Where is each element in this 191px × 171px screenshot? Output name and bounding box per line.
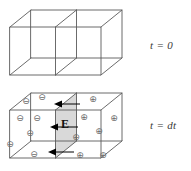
positive-charge: ⊕	[95, 126, 103, 136]
panel-bottom: ⊖ ⊖ ⊖ ⊖ ⊖ ⊖ ⊖ ⊕ ⊕ ⊕ ⊕ ⊕ ⊕ ⊕	[0, 0, 191, 171]
field-label-E: E	[61, 117, 69, 131]
negative-charge: ⊖	[38, 92, 46, 102]
positive-charge: ⊕	[76, 150, 84, 160]
negative-charge: ⊖	[6, 139, 14, 149]
negative-charge: ⊖	[22, 96, 30, 106]
positive-charge: ⊕	[99, 150, 107, 160]
positive-charge: ⊕	[80, 112, 88, 122]
negative-charge: ⊖	[26, 128, 34, 138]
negative-charge: ⊖	[33, 113, 41, 123]
time-label-tdt: t = dt	[150, 119, 176, 131]
negative-charge: ⊖	[16, 113, 24, 123]
negative-charge-group: ⊖ ⊖ ⊖ ⊖ ⊖ ⊖ ⊖	[6, 92, 46, 159]
positive-charge: ⊕	[72, 132, 80, 142]
bottom-box-edge-front-right-top	[101, 93, 122, 110]
bottom-box-wireframe: ⊖ ⊖ ⊖ ⊖ ⊖ ⊖ ⊖ ⊕ ⊕ ⊕ ⊕ ⊕ ⊕ ⊕	[0, 0, 191, 171]
positive-charge: ⊕	[89, 94, 97, 104]
negative-charge: ⊖	[30, 149, 38, 159]
physics-figure: t = 0	[0, 0, 191, 171]
positive-charge: ⊕	[110, 113, 118, 123]
